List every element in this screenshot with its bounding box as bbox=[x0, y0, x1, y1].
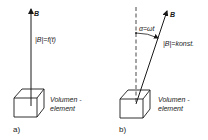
panel-a-element-label-line2: element bbox=[50, 105, 75, 112]
panel-a-magnitude-label: |B|=f(t) bbox=[35, 36, 56, 43]
panel-b-angle-label: α=ωt bbox=[139, 25, 154, 32]
panel-a-cube bbox=[14, 89, 44, 117]
panel-b-element-label-line1: Volumen - bbox=[158, 96, 190, 103]
panel-b-angle-arc bbox=[136, 33, 158, 38]
panel-b-caption: b) bbox=[119, 126, 126, 134]
panel-b-element-label-line2: element bbox=[158, 105, 183, 112]
panel-b-angle-origin-dot bbox=[135, 32, 137, 34]
diagram-canvas bbox=[0, 0, 208, 140]
panel-a-caption: a) bbox=[13, 126, 20, 134]
panel-b-cube bbox=[120, 90, 150, 118]
panel-a-element-label-line1: Volumen - bbox=[50, 96, 82, 103]
panel-b-vector-label: B bbox=[170, 11, 175, 18]
panel-a-vector-label: B bbox=[34, 10, 39, 17]
panel-b-magnitude-label: |B|=konst. bbox=[163, 40, 194, 47]
